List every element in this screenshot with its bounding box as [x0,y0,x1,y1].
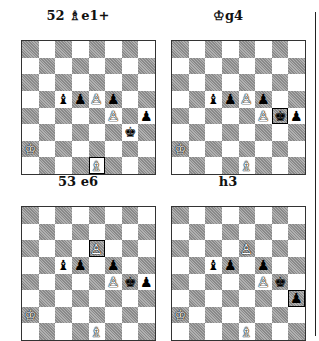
square-a7 [172,58,189,75]
square-f8 [255,207,272,224]
square-c8 [55,41,72,58]
square-b5 [39,257,56,274]
square-a7 [22,58,39,75]
square-e3 [89,124,106,141]
square-g4: ♚ [272,274,289,291]
square-h2 [138,141,155,158]
square-d2 [222,307,239,324]
square-d1 [72,323,89,340]
square-b6 [39,74,56,91]
white-pawn-icon: ♙ [107,109,120,123]
square-c6 [55,240,72,257]
square-g3 [272,290,289,307]
square-c5: ♝ [205,91,222,108]
square-h7 [138,58,155,75]
square-b3 [39,290,56,307]
square-d4 [72,274,89,291]
square-f5: ♟ [105,257,122,274]
square-a5 [22,257,39,274]
chess-board: ♙♝♟♟♙♚♟♔♗ [21,206,156,341]
white-pawn-icon: ♙ [240,92,253,106]
square-a5 [22,91,39,108]
square-b3 [39,124,56,141]
black-king-icon: ♚ [274,109,287,123]
square-d5: ♟ [222,91,239,108]
square-h4: ♟ [138,274,155,291]
square-f3 [105,124,122,141]
square-b5 [39,91,56,108]
white-pawn-icon: ♙ [240,242,253,256]
white-pawn-icon: ♙ [257,109,270,123]
square-f4: ♙ [105,274,122,291]
white-king-icon: ♔ [174,308,187,322]
white-pawn-icon: ♙ [257,275,270,289]
square-h6 [138,240,155,257]
black-pawn-icon: ♟ [224,258,237,272]
square-f3 [105,290,122,307]
square-e6: ♙ [239,240,256,257]
square-b6 [189,240,206,257]
square-f4: ♙ [105,108,122,125]
square-a6 [172,74,189,91]
square-f2 [105,141,122,158]
square-a2: ♔ [22,307,39,324]
square-e1: ♗ [89,157,106,174]
diagram-caption: 52 ♗e1+ [3,8,153,23]
square-h3 [288,124,305,141]
square-d6 [72,74,89,91]
square-g1 [272,323,289,340]
square-g4: ♚ [272,108,289,125]
square-d5: ♟ [222,257,239,274]
black-pawn-icon: ♟ [74,258,87,272]
square-h2 [288,141,305,158]
square-b2 [189,307,206,324]
square-a8 [22,41,39,58]
square-d5: ♟ [72,91,89,108]
square-c7 [205,224,222,241]
square-b7 [189,58,206,75]
square-a3 [22,124,39,141]
square-d2 [72,307,89,324]
square-e6 [239,74,256,91]
diagram-caption: h3 [153,174,303,189]
square-f5: ♟ [105,91,122,108]
black-bishop-icon: ♝ [57,258,70,272]
square-h3: ♟ [288,290,305,307]
white-king-icon: ♔ [174,142,187,156]
square-d6 [72,240,89,257]
square-e5: ♙ [239,91,256,108]
square-a6 [22,74,39,91]
square-h8 [138,41,155,58]
square-e7 [239,58,256,75]
square-d3 [222,290,239,307]
square-c5: ♝ [55,91,72,108]
square-g3 [122,290,139,307]
square-g5 [272,257,289,274]
square-a5 [172,257,189,274]
square-g5 [272,91,289,108]
square-h5 [138,91,155,108]
square-b4 [189,108,206,125]
square-f6 [105,240,122,257]
white-pawn-icon: ♙ [90,242,103,256]
square-g4: ♚ [122,274,139,291]
square-h4: ♟ [288,108,305,125]
square-d1 [222,323,239,340]
square-f6 [255,240,272,257]
square-g5 [122,257,139,274]
square-b6 [189,74,206,91]
white-king-icon: ♔ [24,142,37,156]
square-b1 [39,157,56,174]
black-pawn-icon: ♟ [74,92,87,106]
square-a3 [172,124,189,141]
white-bishop-icon: ♗ [240,325,253,339]
square-g1 [272,157,289,174]
square-c2 [205,141,222,158]
diagram-caption: 53 e6 [3,174,153,189]
square-g7 [272,224,289,241]
square-a2: ♔ [22,141,39,158]
square-b5 [189,257,206,274]
black-bishop-icon: ♝ [57,92,70,106]
square-d8 [72,207,89,224]
white-bishop-icon: ♗ [90,159,103,173]
